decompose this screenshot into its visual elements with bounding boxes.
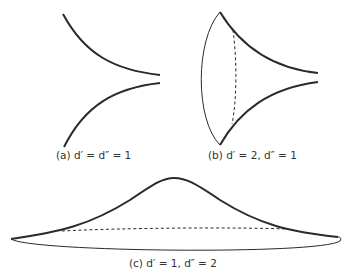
figure-c-profile-curve — [11, 178, 338, 239]
diagram-canvas — [0, 0, 350, 280]
figure-a-upper-curve — [63, 14, 160, 75]
figure-a — [63, 14, 160, 147]
figure-c-back-ellipse-arc — [62, 228, 288, 231]
figure-b-lower-curve — [220, 82, 318, 145]
figure-c-caption: (c) d′ = 1, d″ = 2 — [129, 257, 217, 269]
figure-c — [11, 178, 341, 250]
figure-b — [201, 12, 318, 145]
figure-b-back-ellipse-arc — [232, 30, 236, 124]
figure-b-front-ellipse-arc — [201, 12, 220, 145]
figure-a-lower-curve — [64, 83, 160, 147]
figure-c-front-ellipse-arc — [11, 237, 341, 250]
figure-a-caption: (a) d′ = d″ = 1 — [56, 149, 131, 161]
figure-b-caption: (b) d′ = 2, d″ = 1 — [208, 149, 297, 161]
